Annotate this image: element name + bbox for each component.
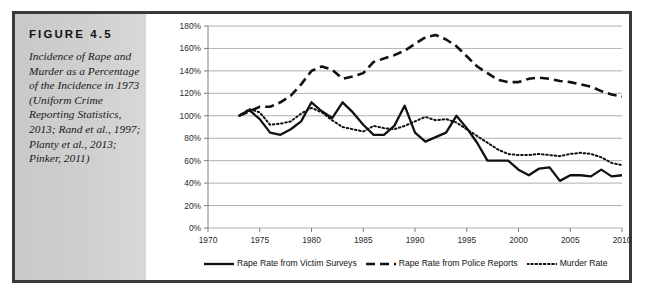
legend-label: Rape Rate from Police Reports [399,258,518,268]
legend-label: Rape Rate from Victim Surveys [237,258,357,268]
legend-item: Murder Rate [527,258,608,268]
legend-swatch-solid [204,259,234,268]
x-tick-label: 2000 [509,235,528,245]
chart-area: 0%20%40%60%80%100%120%140%160%180% 19701… [146,14,629,280]
x-tick-label: 2005 [561,235,580,245]
legend-item: Rape Rate from Police Reports [366,258,518,268]
x-tick-label: 1980 [302,235,321,245]
chart-legend: Rape Rate from Victim SurveysRape Rate f… [204,258,607,268]
y-tick-label: 0% [146,223,201,233]
x-tick-label: 1985 [354,235,373,245]
series-line-2 [239,108,622,165]
y-tick-label: 120% [146,88,201,98]
y-tick-label: 160% [146,43,201,53]
legend-swatch-dotted [527,259,557,268]
legend-swatch-dashed [366,259,396,268]
x-tick-label: 1995 [457,235,476,245]
figure-sidebar: FIGURE 4.5 Incidence of Rape and Murder … [15,14,146,280]
figure-container: FIGURE 4.5 Incidence of Rape and Murder … [12,11,632,283]
series-line-1 [239,35,622,116]
legend-item: Rape Rate from Victim Surveys [204,258,357,268]
legend-label: Murder Rate [560,258,608,268]
x-tick-label: 1975 [250,235,269,245]
series-lines [239,35,622,181]
y-tick-label: 60% [146,156,201,166]
series-line-0 [239,102,622,181]
figure-number-label: FIGURE 4.5 [29,28,136,40]
y-tick-label: 180% [146,21,201,31]
y-tick-label: 140% [146,66,201,76]
y-tick-label: 100% [146,111,201,121]
gridlines [208,26,622,228]
y-tick-label: 40% [146,178,201,188]
x-tick-label: 2010 [613,235,632,245]
y-tick-label: 20% [146,201,201,211]
x-tick-label: 1970 [199,235,218,245]
x-tick-label: 1990 [406,235,425,245]
figure-caption: Incidence of Rape and Murder as a Percen… [29,49,141,166]
y-tick-label: 80% [146,133,201,143]
